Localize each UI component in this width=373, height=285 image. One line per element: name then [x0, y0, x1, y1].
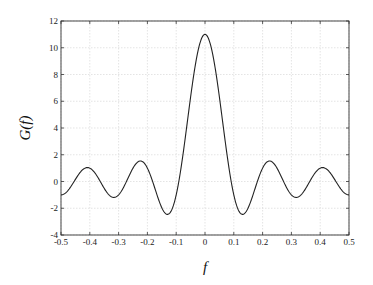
- x-tick-label: 0.1: [228, 237, 239, 247]
- y-tick-label: 4: [54, 123, 59, 133]
- x-tick-label: -0.4: [83, 237, 98, 247]
- x-tick-label: 0.2: [257, 237, 268, 247]
- y-tick-label: -2: [51, 203, 59, 213]
- y-tick-label: 12: [49, 16, 58, 26]
- x-tick-label: -0.2: [140, 237, 154, 247]
- y-tick-label: 8: [54, 70, 59, 80]
- x-axis-ticks: -0.5-0.4-0.3-0.2-0.100.10.20.30.40.5: [54, 21, 355, 247]
- x-tick-label: -0.1: [169, 237, 183, 247]
- y-tick-label: 0: [54, 177, 59, 187]
- x-tick-label: 0: [203, 237, 208, 247]
- x-tick-label: -0.3: [111, 237, 126, 247]
- y-tick-label: 10: [49, 43, 59, 53]
- grid-lines: [61, 21, 349, 235]
- y-tick-label: 6: [54, 96, 59, 106]
- y-axis-label: G(f): [17, 116, 34, 141]
- y-tick-label: -4: [51, 230, 59, 240]
- x-axis-label: f: [203, 259, 209, 275]
- line-chart: -0.5-0.4-0.3-0.2-0.100.10.20.30.40.5 -4-…: [0, 0, 373, 285]
- y-tick-label: 2: [54, 150, 59, 160]
- x-tick-label: 0.5: [343, 237, 355, 247]
- x-tick-label: 0.3: [286, 237, 298, 247]
- x-tick-label: 0.4: [315, 237, 327, 247]
